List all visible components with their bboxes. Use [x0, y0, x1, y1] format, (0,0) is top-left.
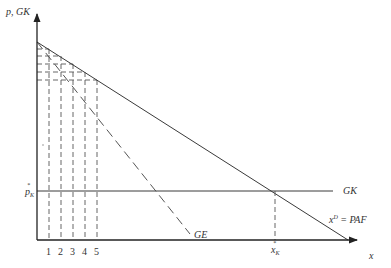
monopoly-diagram: p, GK x pK * xK * 1 2 3 4 5 GE GK xD = P… — [0, 0, 391, 268]
demand-curve — [37, 42, 348, 240]
marginal-cost-label: GK — [343, 185, 358, 196]
marginal-revenue-curve — [37, 42, 190, 234]
price-optimum-star: * — [27, 182, 30, 188]
quantity-tick-3: 3 — [70, 246, 75, 257]
quantity-tick-2: 2 — [58, 246, 63, 257]
x-axis-label: x — [368, 250, 374, 261]
marginal-revenue-label: GE — [194, 229, 207, 240]
demand-label-rest: = PAF — [338, 214, 368, 225]
quantity-guide-lines — [49, 49, 97, 240]
quantity-tick-4: 4 — [82, 246, 87, 257]
quantity-optimum-sub: K — [274, 250, 280, 256]
quantity-tick-1: 1 — [46, 246, 51, 257]
quantity-tick-5: 5 — [94, 246, 99, 257]
stray-dot — [42, 144, 43, 145]
price-optimum-sub: K — [29, 192, 35, 198]
quantity-optimum-star: * — [273, 240, 276, 246]
demand-label: xD = PAF — [328, 214, 367, 225]
y-axis-label: p, GK — [5, 6, 31, 17]
